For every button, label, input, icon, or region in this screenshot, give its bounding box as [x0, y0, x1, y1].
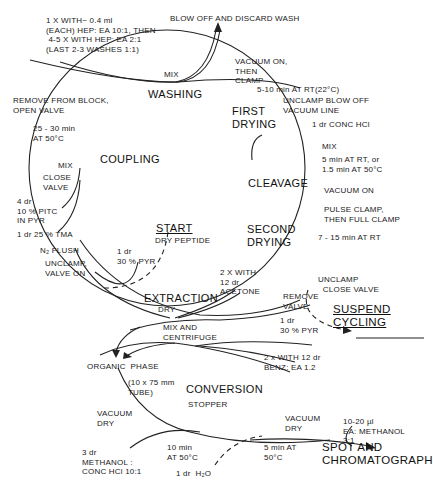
ea-methanol: 10-20 µl EA: METHANOL 3:1: [343, 417, 405, 446]
organic-phase: ORGANIC PHASE: [87, 362, 159, 372]
stage-washing: WASHING: [148, 88, 202, 101]
vacuum-dry-left: VACUUM DRY: [97, 409, 132, 428]
stage-first-drying: FIRST DRYING: [232, 105, 276, 131]
stage-second-drying: SECOND DRYING: [247, 223, 296, 249]
mix-and-centrifuge: MIX AND CENTRIFUGE: [163, 323, 217, 342]
unclamp-blow-off: UNCLAMP BLOW OFF VACUUM LINE: [283, 96, 369, 115]
unclamp-close-valve: UNCLAMP CLOSE VALVE: [318, 275, 379, 294]
stage-coupling: COUPLING: [100, 153, 160, 166]
stopper: STOPPER: [188, 400, 228, 410]
vacuum-on: VACUUM ON: [324, 186, 374, 196]
conversion-time-2: 5 min AT 50°C: [264, 443, 297, 462]
coupling-time: 25 - 30 min AT 50°C: [33, 124, 75, 143]
pyr-left: 1 dr 30 % PYR: [117, 247, 156, 266]
n2-flush: N₂ FLUSH: [40, 246, 79, 256]
pulse-clamp: PULSE CLAMP, THEN FULL CLAMP: [324, 205, 400, 224]
extraction-dry: DRY: [158, 305, 175, 315]
conversion-time-1: 10 min AT 50°C: [167, 443, 198, 462]
water-drop: 1 dr H₂O: [176, 469, 211, 479]
remove-valve: REMOVE VALVE: [283, 292, 319, 311]
washing-mix: MIX: [164, 70, 179, 80]
stage-start: START: [156, 222, 193, 235]
cleavage-mix: MIX: [322, 142, 337, 152]
tma-reagent: 1 dr 25 % TMA: [17, 230, 73, 240]
blow-off-note: BLOW OFF AND DISCARD WASH: [170, 14, 300, 24]
conc-hcl: 1 dr CONC HCl: [312, 120, 370, 130]
benz-wash: 2 x WITH 12 dr BENZ: EA 1.2: [264, 353, 321, 372]
stage-conversion: CONVERSION: [186, 383, 263, 396]
second-dry-time: 7 - 15 min AT RT: [318, 233, 381, 243]
vacuum-dry-right: VACUUM DRY: [285, 414, 320, 433]
stage-cleavage: CLEAVAGE: [248, 177, 308, 190]
close-valve: CLOSE VALVE: [43, 173, 71, 192]
wash-reagent-note: 1 X WITH~ 0.4 ml (EACH) HEP: EA 10:1, TH…: [46, 16, 156, 54]
pitc-reagent: 4 dr 10 % PITC IN PYR: [17, 197, 57, 226]
remove-from-block: REMOVE FROM BLOCK, OPEN VALVE: [13, 96, 109, 115]
cleavage-time: 5 min AT RT, or 1.5 min AT 50°C: [322, 155, 383, 174]
stage-extraction: EXTRACTION: [144, 292, 218, 305]
pyr-right: 1 dr 30 % PYR: [280, 316, 319, 335]
acetone-wash: 2 X WITH 12 dr ACETONE: [220, 268, 260, 297]
vacuum-on-clamp: VACUUM ON, THEN CLAMP: [235, 57, 288, 86]
methanol-hcl: 3 dr METHANOL : CONC HCl 10:1: [82, 448, 142, 477]
blow-off-arrow-icon: [214, 22, 222, 32]
start-dry-peptide: DRY PEPTIDE: [155, 236, 210, 246]
coupling-mix: MIX: [58, 161, 73, 171]
tube-size: (10 x 75 mm TUBE): [128, 378, 175, 397]
unclamp-valve-on: UNCLAMP, VALVE ON: [45, 259, 87, 278]
suspend-cycling: SUSPEND CYCLING: [333, 303, 391, 329]
first-dry-time: 5-10 min AT RT(22°C): [257, 85, 339, 95]
